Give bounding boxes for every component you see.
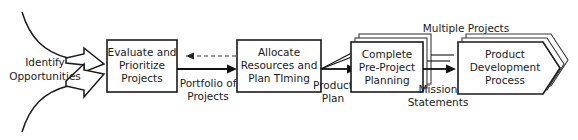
identify-opportunities-line-2: Opportunities: [9, 70, 81, 82]
mission-statements-label-line-2: Statements: [408, 96, 469, 108]
multiple-projects-label: Multiple Projects: [423, 22, 509, 34]
feedback-loop-arrowhead: [186, 53, 194, 60]
product-development-process-line-3: Process: [485, 74, 525, 86]
portfolio-of-projects-arrowhead: [227, 65, 237, 74]
identify-opportunities-line-1: Identify: [25, 56, 65, 68]
complete-pre-project-planning-line-1: Complete: [362, 48, 413, 60]
product-plan-label-line-1: Product: [313, 79, 353, 91]
process-flow-diagram: Multiple Projects Identify Opportunities…: [0, 0, 578, 140]
complete-pre-project-planning-line-2: Pre-Project: [359, 61, 415, 73]
mission-statements-label-line-1: Mission: [419, 83, 458, 95]
mission-statements-arrowhead: [446, 65, 456, 74]
allocate-resources-plan-timing-line-1: Allocate: [258, 46, 300, 58]
funnel-arrow-upper: [66, 48, 104, 72]
allocate-resources-plan-timing-line-2: Resources and: [241, 59, 318, 71]
portfolio-of-projects-edge: Portfolio of Projects: [177, 65, 237, 103]
feedback-loop-edge: [186, 53, 236, 60]
flowchart-canvas: Multiple Projects Identify Opportunities…: [0, 0, 578, 140]
allocate-resources-plan-timing-line-3: Plan TIming: [248, 72, 310, 84]
funnel-curve-upper: [22, 12, 68, 58]
product-development-process-line-2: Development: [470, 61, 541, 73]
evaluate-prioritize-projects-node: Evaluate and Prioritize Projects: [107, 40, 177, 92]
identify-opportunities-node: Identify Opportunities: [9, 12, 104, 132]
funnel-curve-lower: [22, 86, 68, 132]
evaluate-prioritize-projects-line-1: Evaluate and: [108, 46, 177, 58]
product-development-process-node: Product Development Process: [458, 34, 568, 94]
evaluate-prioritize-projects-line-3: Projects: [121, 72, 162, 84]
product-development-process-line-1: Product: [485, 48, 525, 60]
complete-pre-project-planning-line-3: Planning: [364, 74, 409, 86]
evaluate-prioritize-projects-line-2: Prioritize: [119, 59, 165, 71]
portfolio-of-projects-label-line-1: Portfolio of: [180, 77, 237, 89]
portfolio-of-projects-label-line-2: Projects: [187, 90, 228, 102]
allocate-resources-plan-timing-node: Allocate Resources and Plan TIming: [237, 40, 321, 92]
product-plan-label-line-2: Plan: [322, 92, 344, 104]
